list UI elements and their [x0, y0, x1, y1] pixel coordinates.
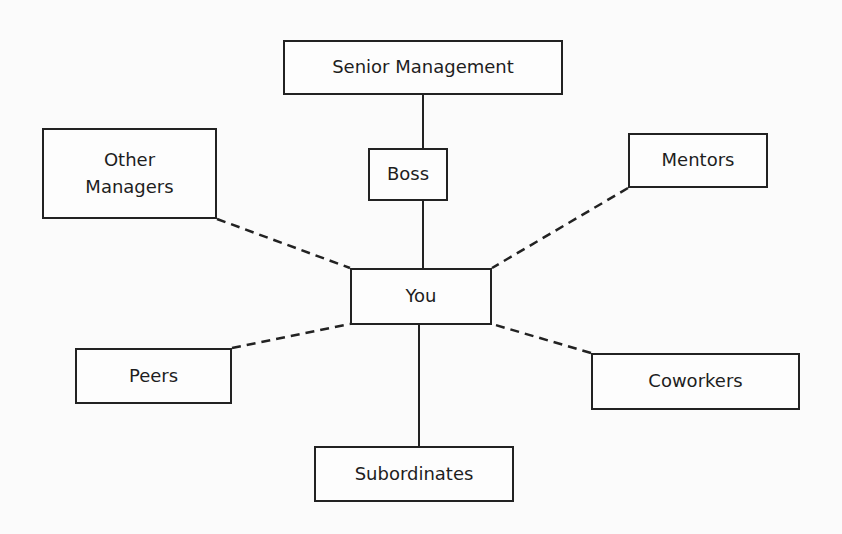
edge-coworkers-you — [492, 324, 591, 353]
node-you: You — [350, 268, 492, 325]
node-coworkers: Coworkers — [591, 353, 800, 410]
node-peers: Peers — [75, 348, 232, 404]
edge-peers-you — [232, 324, 350, 348]
relationship-diagram: Senior Management Boss Other Managers Me… — [0, 0, 842, 534]
node-mentors: Mentors — [628, 133, 768, 188]
edge-mentors-you — [492, 188, 628, 268]
node-boss: Boss — [368, 148, 448, 201]
node-subordinates: Subordinates — [314, 446, 514, 502]
node-other-managers: Other Managers — [42, 128, 217, 219]
node-senior-management: Senior Management — [283, 40, 563, 95]
edge-other-you — [217, 219, 350, 268]
